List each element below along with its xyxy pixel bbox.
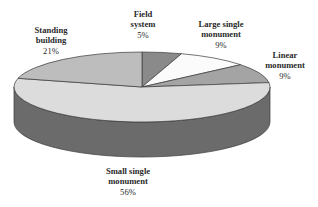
slice-label-name: monument [198,29,243,39]
slice-label-percent: 9% [265,71,305,81]
slice-label-small-single-monument: Small singlemonument56% [106,166,150,197]
slice-label-name: Field [131,9,156,19]
slice-label-name: building [35,35,68,45]
slice-label-name: Linear [265,50,305,60]
slice-label-percent: 56% [106,187,150,197]
slice-label-percent: 5% [131,30,156,40]
slice-label-field-system: Fieldsystem5% [131,9,156,40]
slice-label-name: Standing [35,25,68,35]
slice-label-percent: 9% [198,40,243,50]
slice-label-linear-monument: Linearmonument9% [265,50,305,81]
slice-label-name: Small single [106,166,150,176]
slice-label-name: system [131,19,156,29]
slice-label-name: Large single [198,19,243,29]
slice-label-large-single-monument: Large singlemonument9% [198,19,243,50]
slice-label-name: monument [265,60,305,70]
slice-label-name: monument [106,176,150,186]
pie-top [14,52,270,122]
slice-label-standing-building: Standingbuilding21% [35,25,68,56]
slice-label-percent: 21% [35,46,68,56]
